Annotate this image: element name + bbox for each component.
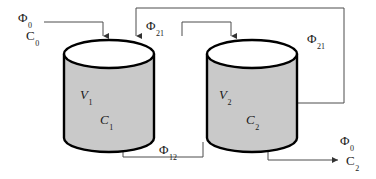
pipe-return-into-tank2 — [182, 22, 231, 36]
label-tank-1-volume: V1 — [80, 86, 92, 105]
flow-lines-and-vessels — [0, 0, 376, 179]
label-feed-flow: Φ0 — [18, 9, 32, 28]
label-feed-concentration: C0 — [26, 27, 39, 46]
label-tank-2-volume: V2 — [219, 86, 231, 105]
label-tank-1-concentration: C1 — [100, 111, 113, 130]
tank-1-vessel — [64, 40, 154, 152]
label-tank-2-concentration: C2 — [246, 111, 259, 130]
label-recycle-21-right: Φ21 — [307, 30, 325, 49]
label-outlet-flow: Φ0 — [340, 132, 354, 151]
label-recycle-21-top: Φ21 — [146, 17, 164, 36]
label-outlet-concentration: C2 — [346, 152, 359, 171]
process-flow-diagram: Φ0 C0 Φ21 Φ21 Φ12 Φ0 C2 V1 C1 V2 C2 — [0, 0, 376, 179]
label-transfer-12: Φ12 — [159, 141, 177, 160]
pipe-feed — [44, 22, 103, 36]
